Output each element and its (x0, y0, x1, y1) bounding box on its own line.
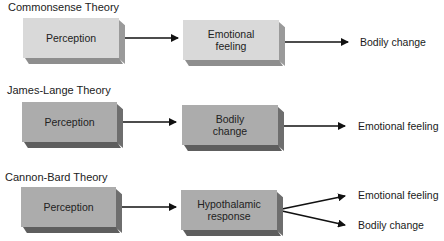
row3-output-bodily-change: Bodily change (358, 219, 424, 231)
row2-perception-side (117, 104, 123, 148)
row1-emotional-feeling-bottom (185, 60, 283, 66)
row2-output-emotional-feeling: Emotional feeling (358, 120, 439, 132)
row1-perception-label: Perception (23, 18, 119, 58)
arrow-hypothalamic-to-emotional-feeling (282, 196, 345, 209)
row3-perception-side (116, 189, 122, 233)
row3-output-emotional-feeling: Emotional feeling (358, 189, 439, 201)
row2-title: James-Lange Theory (7, 84, 111, 96)
row2-box2-line1: Bodily (216, 113, 245, 125)
row1-perception-bottom (25, 58, 123, 64)
row2-perception-label: Perception (22, 102, 117, 142)
row1-title: Commonsense Theory (8, 1, 119, 13)
row3-perception-bottom (23, 227, 120, 233)
row2-bodily-change-side (278, 107, 284, 151)
row3-title: Cannon-Bard Theory (5, 171, 108, 183)
row1-output-bodily-change: Bodily change (360, 36, 426, 48)
row2-bodily-change-bottom (184, 145, 282, 151)
row3-perception-label: Perception (21, 187, 116, 227)
row2-box2-line2: change (213, 125, 247, 137)
row3-hypothalamic-side (277, 192, 283, 236)
row3-box2-line2: response (207, 210, 250, 222)
row2-bodily-change-face: Bodily change (182, 105, 278, 145)
row1-perception-side (119, 20, 125, 64)
row1-box2-line2: feeling (216, 40, 247, 52)
row1-emotional-feeling-side (279, 22, 285, 66)
row3-hypothalamic-bottom (183, 230, 281, 236)
row2-perception-bottom (24, 142, 121, 148)
row1-emotional-feeling-face: Emotional feeling (183, 20, 279, 60)
arrow-hypothalamic-to-bodily-change (282, 211, 345, 225)
row3-box2-line1: Hypothalamic (197, 198, 261, 210)
row1-box2-line1: Emotional (208, 28, 255, 40)
row3-hypothalamic-face: Hypothalamic response (181, 190, 277, 230)
